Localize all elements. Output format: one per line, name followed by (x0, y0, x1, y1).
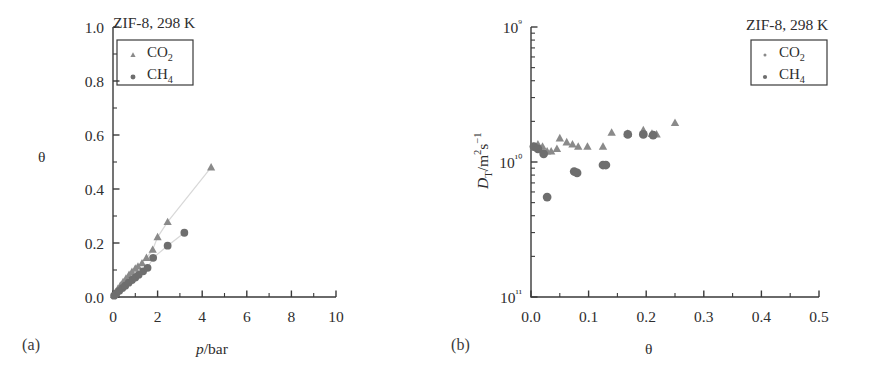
panel-a-xtick-label: 0 (109, 308, 117, 325)
panel-a-plot: 02468100.00.20.40.60.81.0 (0, 0, 441, 377)
panel-a-xaxis-title: p/bar (196, 340, 228, 358)
panel-b-datapoint-ch4 (543, 193, 552, 202)
panel-b-yaxis-unit-2: s (474, 144, 491, 150)
panel-b-datapoint-ch4 (573, 169, 582, 178)
panel-b-datapoint-ch4 (623, 130, 632, 139)
panel-b-legend-item-co2: CO2 (779, 44, 805, 63)
panel-b-legend-ch4-sub: 4 (800, 74, 805, 85)
panel-b-yaxis-title: DT/m2s−1 (472, 81, 493, 241)
panel-b-legend-co2-sub: 2 (800, 52, 805, 63)
panel-a-ytick-label: 0.0 (85, 289, 105, 306)
panel-a-xaxis-unit: /bar (204, 340, 228, 357)
panel-b-yaxis-unit-1: /m (474, 155, 491, 171)
panel-b-yaxis-subscript: T (483, 171, 494, 177)
panel-a-legend-co2-name: CO (147, 44, 168, 60)
panel-a-xaxis-symbol: p (196, 340, 204, 357)
panel-a-ytick-label: 0.6 (85, 127, 105, 144)
panel-b-title: ZIF-8, 298 K (746, 16, 828, 34)
panel-b-caption: (b) (451, 336, 470, 354)
panel-b-datapoint-co2 (671, 118, 679, 126)
panel-b-yaxis-symbol: D (474, 178, 491, 189)
panel-b-datapoint-co2 (583, 142, 591, 150)
panel-a-xtick-label: 4 (198, 308, 206, 325)
panel-a-legend-item-co2: CO2 (147, 44, 173, 63)
panel-b-yaxis-sup-1: 2 (472, 150, 483, 155)
panel-a-ytick-label: 0.4 (85, 181, 105, 198)
panel-a-legend-item-ch4: CH4 (147, 66, 173, 85)
panel-a-datapoint-ch4 (149, 254, 157, 262)
panel-a-ytick-label: 0.8 (85, 73, 105, 90)
panel-b-legend-marker-ch4 (763, 75, 767, 79)
panel-b-xtick-label: 0.2 (637, 308, 656, 325)
panel-a-xtick-label: 2 (154, 308, 162, 325)
panel-a-caption: (a) (22, 336, 40, 354)
panel-b-plot: 0.00.10.20.30.40.510⁹10¹⁰10¹¹ (441, 0, 883, 377)
panel-a-datapoint-ch4 (144, 264, 152, 272)
panel-b-datapoint-ch4 (649, 131, 658, 140)
panel-a-legend-co2-sub: 2 (168, 52, 173, 63)
panel-b-datapoint-co2 (556, 134, 564, 142)
panel-a-ytick-label: 0.2 (85, 235, 104, 252)
panel-b-datapoint-ch4 (639, 130, 648, 139)
panel-a-xtick-label: 10 (328, 308, 344, 325)
panel-a-yaxis-title: θ (38, 148, 45, 166)
panel-a-datapoint-ch4 (164, 242, 172, 250)
panel-a-ytick-label: 1.0 (85, 19, 105, 36)
panel-b-legend-item-ch4: CH4 (779, 66, 805, 85)
panel-b-legend-marker-co2 (763, 53, 766, 56)
panel-a-legend-marker-ch4 (131, 75, 136, 80)
panel-a-legend-marker-co2 (130, 52, 135, 57)
panel-b-xtick-label: 0.5 (809, 308, 829, 325)
panel-b-ytick-label: 10¹¹ (500, 287, 522, 306)
panel-b-datapoint-co2 (553, 145, 561, 153)
panel-a-xtick-label: 6 (243, 308, 251, 325)
panel-b-legend-co2-name: CO (779, 44, 800, 60)
panel-a: 02468100.00.20.40.60.81.0 ZIF-8, 298 K p… (0, 0, 441, 377)
panel-a-datapoint-co2 (149, 245, 157, 252)
panel-a-xtick-label: 8 (288, 308, 296, 325)
panel-b-xtick-label: 0.3 (694, 308, 714, 325)
panel-a-datapoint-co2 (154, 233, 162, 240)
panel-b-datapoint-co2 (563, 138, 571, 146)
panel-b-ytick-label: 10¹⁰ (499, 152, 523, 171)
figure-container: 02468100.00.20.40.60.81.0 ZIF-8, 298 K p… (0, 0, 883, 377)
panel-b-yaxis-sup-2: −1 (472, 132, 483, 143)
panel-b-axis-lines (531, 27, 819, 297)
panel-b-datapoint-ch4 (602, 161, 611, 170)
panel-b: 0.00.10.20.30.40.510⁹10¹⁰10¹¹ ZIF-8, 298… (441, 0, 883, 377)
panel-a-title: ZIF-8, 298 K (113, 14, 195, 32)
panel-b-xtick-label: 0.1 (579, 308, 598, 325)
panel-b-datapoint-co2 (607, 128, 615, 136)
panel-a-legend-ch4-sub: 4 (168, 74, 173, 85)
panel-b-legend-ch4-name: CH (779, 66, 800, 82)
panel-b-datapoint-co2 (599, 142, 607, 150)
panel-a-legend-ch4-name: CH (147, 66, 168, 82)
panel-b-datapoint-ch4 (539, 149, 548, 158)
panel-b-xtick-label: 0.0 (521, 308, 541, 325)
panel-a-datapoint-co2 (207, 163, 215, 170)
panel-b-xtick-label: 0.4 (752, 308, 772, 325)
panel-a-datapoint-ch4 (180, 229, 188, 237)
panel-b-xaxis-title: θ (645, 340, 652, 358)
panel-b-ytick-label: 10⁹ (503, 17, 523, 36)
